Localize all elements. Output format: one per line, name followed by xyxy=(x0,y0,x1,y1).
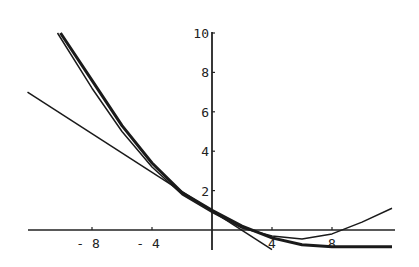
y-tick-label: 10 xyxy=(193,26,209,41)
axis-ticks: - 8- 448246810 xyxy=(76,26,336,251)
plot: - 8- 448246810 xyxy=(0,0,419,267)
y-tick-label: 2 xyxy=(201,184,209,199)
curve-parabola xyxy=(58,33,393,239)
y-tick-label: 8 xyxy=(201,65,209,80)
y-tick-label: 4 xyxy=(201,144,209,159)
x-tick-label: 8 xyxy=(328,236,336,251)
x-tick-label: - 4 xyxy=(136,236,160,251)
series-layer xyxy=(28,33,393,250)
x-tick-label: - 8 xyxy=(76,236,99,251)
tangent-line xyxy=(28,92,273,250)
y-tick-label: 6 xyxy=(201,105,209,120)
curve-thick xyxy=(61,33,393,247)
